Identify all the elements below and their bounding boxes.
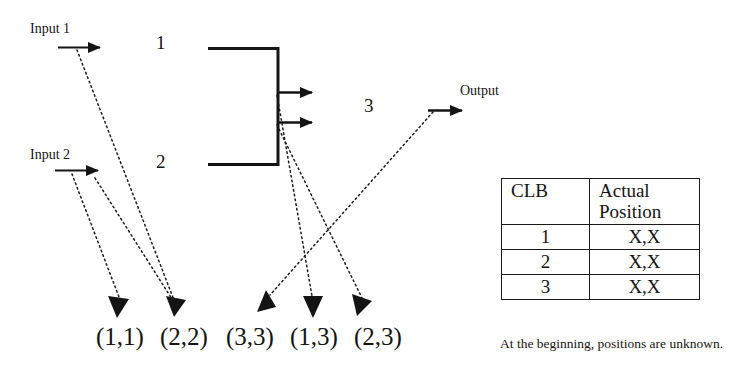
table-header-row: CLB Actual Position — [502, 179, 700, 225]
table-cell-position: X,X — [590, 274, 700, 299]
table-cell-clb: 3 — [502, 274, 590, 299]
position-label-1-3: (1,3) — [290, 324, 338, 349]
block-3-bracket — [208, 49, 278, 165]
mapping-line-block3-to-1-3 — [277, 95, 323, 318]
table-header-position-line1: Actual — [599, 180, 650, 201]
mapping-line-input2-to-1-1 — [72, 174, 129, 318]
table-header-clb: CLB — [502, 179, 590, 225]
diagram-page: Input 1 Input 2 1 2 3 Output (1,1) (2,2)… — [0, 0, 748, 388]
position-label-3-3: (3,3) — [226, 324, 274, 349]
mapping-line-output-to-3-3 — [257, 112, 433, 312]
mapping-line-block3-to-2-3 — [277, 125, 372, 316]
input-1-label: Input 1 — [30, 22, 70, 36]
table-cell-clb: 1 — [502, 224, 590, 249]
table-row: 1 X,X — [502, 224, 700, 249]
table-row: 3 X,X — [502, 274, 700, 299]
output-label: Output — [460, 84, 499, 98]
table-cell-position: X,X — [590, 224, 700, 249]
block-1-label: 1 — [156, 33, 166, 52]
mapping-line-input2-to-2-2 — [95, 178, 172, 299]
input-2-label: Input 2 — [30, 148, 70, 162]
position-label-2-3: (2,3) — [354, 324, 402, 349]
table-row: 2 X,X — [502, 249, 700, 274]
table-header-position-line2: Position — [599, 201, 661, 222]
table-header-position: Actual Position — [590, 179, 700, 225]
mapping-line-input1-to-2-2 — [77, 50, 186, 317]
block-2-label: 2 — [156, 152, 166, 171]
position-label-2-2: (2,2) — [160, 324, 208, 349]
position-label-1-1: (1,1) — [96, 324, 144, 349]
table-cell-clb: 2 — [502, 249, 590, 274]
table-caption: At the beginning, positions are unknown. — [500, 336, 732, 353]
table-cell-position: X,X — [590, 249, 700, 274]
block-3-label: 3 — [364, 96, 374, 115]
clb-position-table: CLB Actual Position 1 X,X 2 X,X 3 X,X — [501, 178, 700, 300]
